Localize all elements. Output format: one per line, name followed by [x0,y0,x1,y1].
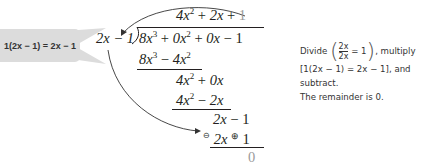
operator: − [198,92,206,108]
term: 1 [242,111,249,127]
dividend-term-1: 8x [139,30,153,46]
step-1: 8x3 − 4x2 [139,52,191,67]
step-1-rule [137,69,202,70]
dividend: 8x3 + 0x2 + 0x − 1 [139,31,243,46]
fraction-numerator: 2x [339,42,349,51]
exponent: 3 [153,29,158,39]
operator: − [230,111,238,127]
explanation-note: Divide (2x2x = 1), multiply [1(2x − 1) =… [300,40,440,104]
plus-circle-icon: ⊕ [231,131,239,141]
note-text: = 1 [351,46,366,56]
divisor-text: 2x − 1 [96,30,134,46]
step-2: 4x2 + 0x [176,73,223,88]
term: 0x [210,72,224,88]
exponent: 2 [186,29,191,39]
term: 4x [173,51,187,67]
note-text: , multiply [375,46,415,56]
operator: + [161,30,169,46]
quotient-term-2: 2x [210,7,224,23]
divisor: 2x − 1 [96,31,134,46]
note-line-3: subtract. [300,76,440,90]
quotient: 4x2 + 2x + 1 [176,8,246,23]
operator: + [227,7,235,23]
paren-close: ) [367,38,376,63]
term: 2x [213,111,227,127]
operator: + [198,72,206,88]
note-line-2: [1(2x − 1) = 2x − 1], and [300,62,440,76]
minus-circle-icon: ⊖ [203,131,210,140]
note-line-4: The remainder is 0. [300,90,440,104]
dividend-term-2: 0x [173,30,187,46]
remainder: 0 [248,150,255,164]
operator: − [224,30,232,46]
term: 1 [243,131,250,147]
note-text: Divide [300,46,327,56]
exponent: 3 [153,50,158,60]
quotient-term-3-highlighted: 1 [239,7,246,23]
term: 4x [176,72,190,88]
operator: + [194,30,202,46]
note-line-1: Divide (2x2x = 1), multiply [300,40,440,62]
exponent: 2 [190,71,195,81]
division-bar [137,27,264,28]
quotient-term-1: 4x [176,7,190,23]
operator: + [198,7,206,23]
exponent: 2 [186,50,191,60]
step-3: 4x2 − 2x [176,93,223,108]
term: 8x [139,51,153,67]
step-4: 2x − 1 [213,112,249,127]
paren-open: ( [330,38,339,63]
dividend-term-4: 1 [235,30,242,46]
term: 2x [214,131,228,147]
dividend-term-3: 0x [206,30,220,46]
fraction: 2x2x [339,42,349,61]
step-5: ⊖ 2x ⊕ 1 [203,132,250,147]
operator: − [161,51,169,67]
exponent: 2 [190,91,195,101]
term: 2x [210,92,224,108]
step-5-rule [210,147,264,148]
term: 4x [176,92,190,108]
fraction-denominator: 2x [339,52,349,61]
exponent: 2 [190,6,195,16]
step-3-rule [172,109,231,110]
